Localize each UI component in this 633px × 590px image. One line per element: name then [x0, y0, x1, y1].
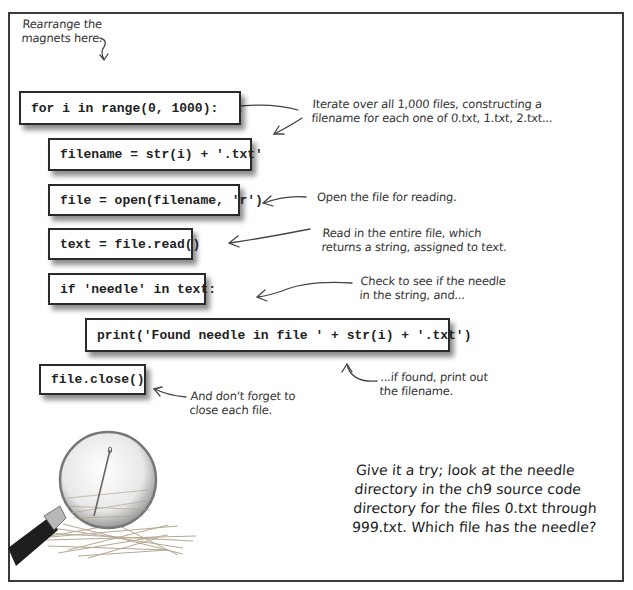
annotation-check: Check to see if the needle in the string…: [359, 274, 506, 302]
magnet-open-file[interactable]: file = open(filename, 'r'): [48, 184, 240, 216]
annotation-print-line-2: the filename.: [379, 384, 487, 398]
magnifying-glass-icon: [8, 432, 156, 566]
annotation-print: ...if found, print out the filename.: [379, 370, 488, 398]
magnet-for-loop[interactable]: for i in range(0, 1000):: [19, 91, 241, 125]
arrowhead-icon: [100, 54, 108, 60]
closing-text-line-3: directory for the files 0.txt through: [353, 499, 599, 518]
annotation-read-line-1: Read in the entire file, which: [322, 226, 508, 240]
annotation-iterate-line-1: Iterate over all 1,000 files, constructi…: [312, 97, 554, 111]
magnet-read-file[interactable]: text = file.read(): [48, 228, 193, 260]
annotation-close-line-2: close each file.: [189, 403, 295, 417]
magnet-if-needle[interactable]: if 'needle' in text:: [48, 273, 206, 305]
annotation-read: Read in the entire file, which returns a…: [321, 226, 508, 254]
magnet-filename[interactable]: filename = str(i) + '.txt': [48, 138, 252, 171]
annotation-read-line-2: returns a string, assigned to text.: [321, 240, 507, 254]
annotation-iterate: Iterate over all 1,000 files, constructi…: [311, 97, 554, 125]
magnet-close-file[interactable]: file.close(): [39, 364, 146, 395]
closing-text-line-1: Give it a try; look at the needle: [355, 461, 601, 480]
magnifier-haystack-illustration: [8, 428, 218, 578]
magnet-print-found[interactable]: print('Found needle in file ' + str(i) +…: [85, 318, 450, 352]
closing-text: Give it a try; look at the needle direct…: [351, 461, 601, 537]
annotation-check-line-2: in the string, and...: [359, 288, 505, 302]
annotation-open: Open the file for reading.: [317, 190, 458, 204]
annotation-iterate-line-2: filename for each one of 0.txt, 1.txt, 2…: [311, 111, 553, 125]
closing-text-line-4: 999.txt. Which file has the needle?: [351, 518, 597, 537]
annotation-print-line-1: ...if found, print out: [380, 370, 488, 384]
closing-text-line-2: directory in the ch9 source code: [354, 480, 600, 499]
annotation-close-line-1: And don't forget to: [190, 389, 296, 403]
annotation-open-line-1: Open the file for reading.: [317, 190, 458, 204]
annotation-check-line-1: Check to see if the needle: [360, 274, 506, 288]
annotation-close: And don't forget to close each file.: [189, 389, 296, 417]
